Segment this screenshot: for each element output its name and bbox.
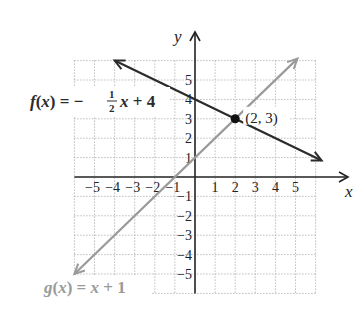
y-tick-label: −3 xyxy=(177,228,192,243)
y-tick-label: −4 xyxy=(177,248,192,263)
x-tick-label: 2 xyxy=(232,180,239,195)
x-tick-label: −5 xyxy=(85,180,100,195)
intersection-point xyxy=(231,114,240,123)
coordinate-graph: xy −5−4−3−2−112345−5−4−3−2−112345 (2, 3)… xyxy=(0,0,364,309)
y-tick-label: −1 xyxy=(177,189,192,204)
y-tick-label: 2 xyxy=(185,131,192,146)
fraction-denominator: 2 xyxy=(109,102,115,114)
y-axis-label: y xyxy=(172,27,182,46)
y-tick-label: −2 xyxy=(177,209,192,224)
g-label: g(x) = x + 1 xyxy=(43,278,126,297)
intersection-label: (2, 3) xyxy=(245,110,278,127)
y-tick-label: −5 xyxy=(177,267,192,282)
f-label: f(x) = − xyxy=(30,92,83,111)
x-tick-label: 3 xyxy=(252,180,259,195)
x-tick-label: 4 xyxy=(272,180,279,195)
x-tick-label: −3 xyxy=(125,180,140,195)
x-tick-label: 1 xyxy=(212,180,219,195)
x-axis-label: x xyxy=(344,182,353,201)
x-tick-label: −4 xyxy=(105,180,120,195)
y-tick-label: 5 xyxy=(185,73,192,88)
x-tick-label: 5 xyxy=(292,180,299,195)
f-label-suffix: x + 4 xyxy=(119,92,156,111)
y-tick-label: 3 xyxy=(185,112,192,127)
fraction-numerator: 1 xyxy=(109,88,115,100)
